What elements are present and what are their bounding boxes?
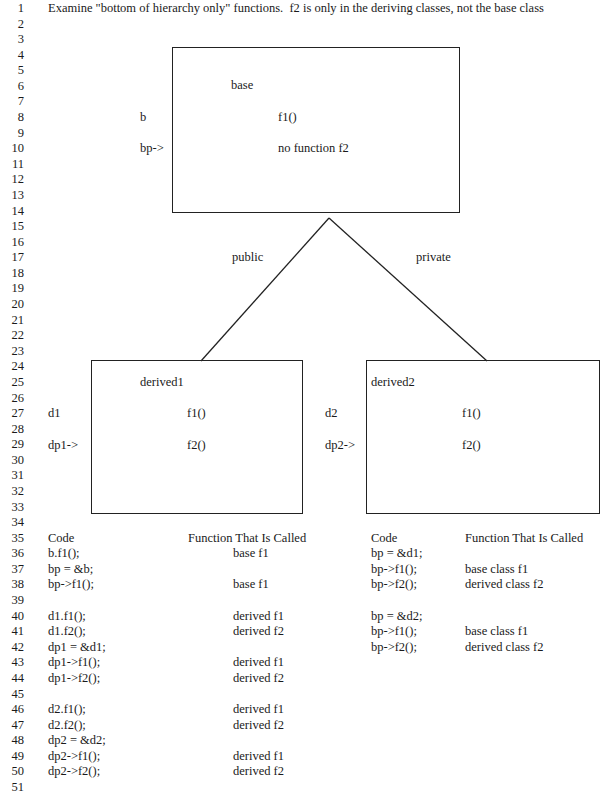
- function-called-cell: derived class f2: [465, 640, 543, 654]
- code-cell: d1.f1();: [48, 609, 86, 623]
- code-cell: bp->f2();: [371, 640, 417, 654]
- function-called-cell: derived f2: [233, 718, 284, 732]
- function-called-cell: derived f1: [233, 655, 284, 669]
- code-cell: d2.f1();: [48, 702, 86, 716]
- code-cell: d1.f2();: [48, 624, 86, 638]
- function-called-cell: derived f2: [233, 624, 284, 638]
- function-called-cell: derived f1: [233, 702, 284, 716]
- derived2-object-label: d2: [325, 406, 338, 420]
- derived1-class-name: derived1: [140, 375, 184, 389]
- code-cell: d2.f2();: [48, 718, 86, 732]
- function-called-cell: base class f1: [465, 624, 528, 638]
- function-called-cell: derived class f2: [465, 577, 543, 591]
- code-cell: bp = &d1;: [371, 546, 423, 560]
- derived1-member-f2: f2(): [187, 438, 206, 452]
- function-called-cell: derived f2: [233, 671, 284, 685]
- function-called-cell: base class f1: [465, 562, 528, 576]
- code-cell: dp1 = &d1;: [48, 640, 106, 654]
- code-cell: dp1->f1();: [48, 655, 100, 669]
- base-pointer-label: bp->: [140, 141, 164, 155]
- code-cell: bp->f1();: [371, 624, 417, 638]
- code-cell: bp = &b;: [48, 562, 93, 576]
- derived1-pointer-label: dp1->: [48, 438, 78, 452]
- base-member-f1: f1(): [278, 110, 297, 124]
- derived2-member-f2: f2(): [462, 438, 481, 452]
- private-inheritance-line: [329, 218, 487, 361]
- base-class-box: [172, 47, 460, 213]
- derived2-member-f1: f1(): [462, 406, 481, 420]
- code-cell: dp2->f2();: [48, 764, 100, 778]
- public-inheritance-line: [201, 218, 329, 361]
- public-inheritance-label: public: [232, 250, 263, 264]
- code-cell: dp2->f1();: [48, 749, 100, 763]
- function-called-cell: base f1: [233, 546, 269, 560]
- code-cell: bp->f2();: [371, 577, 417, 591]
- right-table-header-code: Code: [371, 531, 397, 545]
- code-cell: b.f1();: [48, 546, 80, 560]
- left-table-header-function: Function That Is Called: [188, 531, 306, 545]
- base-object-label: b: [140, 110, 146, 124]
- base-class-name: base: [231, 78, 253, 92]
- code-cell: bp->f1();: [48, 577, 94, 591]
- derived2-pointer-label: dp2->: [325, 438, 355, 452]
- code-cell: bp->f1();: [371, 562, 417, 576]
- code-cell: dp2 = &d2;: [48, 733, 106, 747]
- function-called-cell: base f1: [233, 577, 269, 591]
- left-table-header-code: Code: [48, 531, 74, 545]
- function-called-cell: derived f1: [233, 609, 284, 623]
- code-cell: bp = &d2;: [371, 609, 423, 623]
- derived2-class-name: derived2: [371, 375, 415, 389]
- derived1-object-label: d1: [48, 406, 61, 420]
- function-called-cell: derived f2: [233, 764, 284, 778]
- derived1-member-f1: f1(): [187, 406, 206, 420]
- base-member-f2-note: no function f2: [278, 141, 349, 155]
- function-called-cell: derived f1: [233, 749, 284, 763]
- right-table-header-function: Function That Is Called: [465, 531, 583, 545]
- code-cell: dp1->f2();: [48, 671, 100, 685]
- private-inheritance-label: private: [416, 250, 451, 264]
- derived1-class-box: [91, 360, 303, 514]
